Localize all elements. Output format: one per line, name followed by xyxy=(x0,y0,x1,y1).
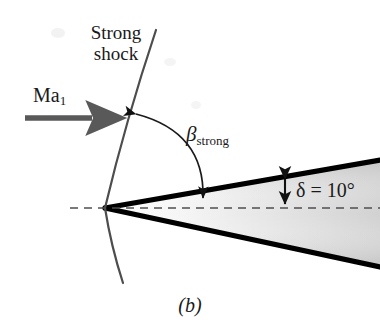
mach-subscript: 1 xyxy=(60,93,67,108)
oblique-shock-diagram xyxy=(0,0,380,332)
mach-number-label: Ma1 xyxy=(33,84,66,109)
strong-shock-line2: shock xyxy=(94,43,138,64)
deflection-angle-label: δ = 10° xyxy=(296,179,355,201)
beta-subscript: strong xyxy=(196,133,229,148)
beta-symbol: β xyxy=(186,122,196,146)
figure-background xyxy=(0,0,380,332)
shock-angle-label: βstrong xyxy=(186,123,229,149)
strong-shock-label: Strongshock xyxy=(68,22,164,65)
strong-shock-line1: Strong xyxy=(91,22,142,43)
figure-caption: (b) xyxy=(0,294,380,316)
delta-text: δ = 10° xyxy=(296,179,355,201)
mach-symbol: Ma xyxy=(33,84,60,106)
